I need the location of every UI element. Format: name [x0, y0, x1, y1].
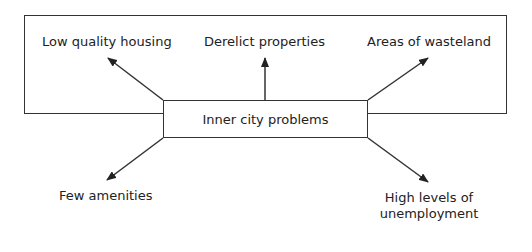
node-line-1: High levels of	[379, 190, 479, 206]
central-node: Inner city problems	[163, 100, 368, 138]
node-line-2: unemployment	[379, 206, 479, 222]
node-areas-of-wasteland: Areas of wasteland	[367, 34, 491, 50]
central-node-label: Inner city problems	[202, 112, 328, 127]
arrow-to-few-amenities	[107, 138, 163, 180]
node-few-amenities: Few amenities	[59, 188, 153, 204]
arrow-to-areas-of-wasteland	[368, 58, 428, 100]
node-derelict-properties: Derelict properties	[204, 34, 325, 50]
node-high-levels-of-unemployment: High levels of unemployment	[379, 190, 479, 222]
node-low-quality-housing: Low quality housing	[42, 34, 172, 50]
arrow-to-low-quality-housing	[108, 58, 163, 100]
arrow-to-high-levels-of-unemployment	[368, 138, 428, 182]
